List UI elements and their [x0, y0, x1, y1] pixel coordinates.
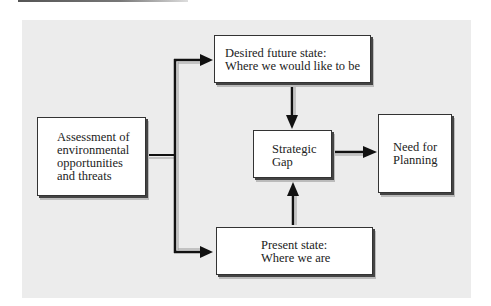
arrow-gap-to-need	[335, 146, 377, 158]
need-for-planning-box: Need for Planning	[378, 114, 452, 193]
present-line-2: Where we are	[261, 252, 330, 265]
arrow-to-present	[174, 246, 213, 258]
desired-line-2: Where we would like to be	[225, 60, 360, 73]
arrow-desired-to-gap	[286, 87, 298, 129]
present-state-box: Present state: Where we are	[216, 227, 373, 275]
connector-trunk	[175, 59, 178, 253]
arrow-present-to-gap	[287, 182, 299, 225]
assessment-line-4: and threats	[57, 170, 130, 183]
desired-state-box: Desired future state: Where we would lik…	[214, 35, 371, 83]
assessment-box: Assessment of environmental opportunitie…	[37, 117, 146, 196]
connector-assessment-trunk	[147, 155, 175, 158]
arrow-to-desired	[174, 54, 213, 66]
strategic-gap-box: Strategic Gap	[253, 130, 332, 178]
gap-line-2: Gap	[272, 156, 316, 169]
need-line-2: Planning	[393, 154, 437, 167]
